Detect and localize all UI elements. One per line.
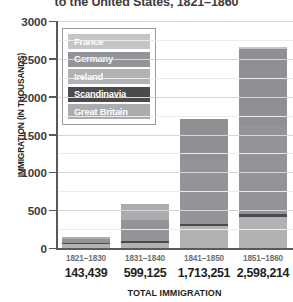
y-tick-mark [49,58,56,60]
x-axis-column: 1821–1830143,439 [55,254,117,280]
total-immigration-value: 2,598,214 [232,266,293,280]
gridline [56,210,293,211]
y-tick-label: 1000 [1,166,47,179]
y-tick-mark [49,96,56,98]
x-tick-label: 1841–1850 [173,254,235,263]
x-axis-column: 1851–18602,598,214 [232,254,293,280]
legend-item-label: Ireland [74,72,103,82]
gridline [56,78,293,79]
gridline [56,135,293,136]
x-tick-label: 1821–1830 [55,254,117,263]
total-immigration-value: 1,713,251 [173,266,235,280]
gridline [56,21,293,22]
legend-item-ireland: Ireland [68,69,150,84]
total-immigration-value: 143,439 [55,266,117,280]
gridline [56,191,293,192]
x-tick-label: 1831–1840 [114,254,176,263]
gridline [56,40,293,41]
legend-item-france: France [68,34,150,49]
immigration-stacked-bar-chart: to the United States, 1821–1860 IMMIGRAT… [0,0,293,302]
y-tick-label: 2000 [1,90,47,103]
gridline [56,59,293,60]
x-axis-band: TOTAL IMMIGRATION 1821–1830143,4391831–1… [56,248,293,302]
legend-item-great-britain: Great Britain [68,104,150,119]
y-axis-line [56,21,58,249]
x-axis-column: 1831–1840599,125 [114,254,176,280]
bar-segment-great-britain [239,49,287,126]
y-tick-label: 0 [1,242,47,255]
gridline [56,172,293,173]
x-tick-label: 1851–1860 [232,254,293,263]
y-tick-mark [49,172,56,174]
y-axis-ticks: 300025002000150010005000 [0,0,47,302]
total-immigration-value: 599,125 [114,266,176,280]
y-tick-label: 2500 [1,52,47,65]
gridline [56,229,293,230]
y-tick-label: 3000 [1,15,47,28]
gridline [56,153,293,154]
y-tick-mark [49,134,56,136]
x-axis-line [56,248,293,250]
y-tick-mark [49,248,56,250]
legend-item-scandinavia: Scandinavia [68,87,150,102]
bar-segment-ireland [239,217,287,248]
bar-segment-germany [239,126,287,214]
x-axis-column: 1841–18501,713,251 [173,254,235,280]
gridline [56,116,293,117]
bar-segment-germany [121,220,169,241]
bar-segment-great-britain [121,204,169,220]
y-tick-mark [49,21,56,23]
bar-1821–1830 [62,237,110,248]
y-tick-mark [49,210,56,212]
chart-legend: FranceGermanyIrelandScandinaviaGreat Bri… [62,28,156,125]
gridline [56,97,293,98]
x-axis-label: TOTAL IMMIGRATION [56,288,293,298]
bar-segment-germany [180,161,228,224]
bar-1851–1860 [239,47,287,249]
y-tick-label: 1500 [1,128,47,141]
y-tick-label: 500 [1,204,47,217]
bar-segment-great-britain [180,119,228,161]
legend-item-label: France [74,37,103,47]
